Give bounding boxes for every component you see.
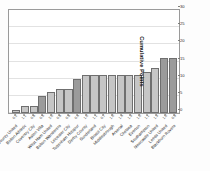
pareto-chart: 051015202530 Cumulative Points 0.21.10.6… xyxy=(0,0,210,171)
bar xyxy=(56,89,64,113)
bar xyxy=(82,75,90,113)
bar xyxy=(64,89,72,113)
bar xyxy=(73,79,81,113)
x-axis-category-label: Blackburn Rovers xyxy=(169,124,178,171)
bar xyxy=(12,110,20,113)
bar xyxy=(38,96,46,113)
x-axis-category-labels: Derby County UnitedBolton AthleticCovent… xyxy=(8,124,180,171)
y-axis-tick-mark xyxy=(178,6,180,7)
bar xyxy=(47,92,55,113)
bar xyxy=(30,106,38,113)
y-axis-title: Cumulative Points xyxy=(90,9,195,114)
bar xyxy=(21,106,29,113)
